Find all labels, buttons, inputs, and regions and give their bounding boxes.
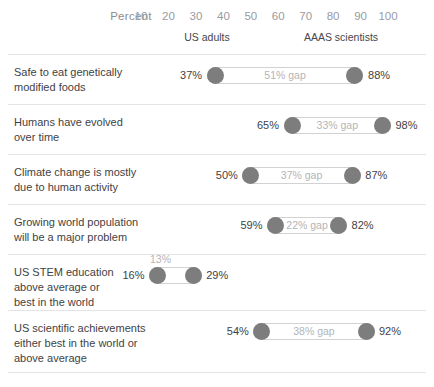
gap-label: 51% gap	[207, 67, 364, 84]
row-divider	[8, 104, 426, 105]
dumbbell-chart: Percent 102030405060708090100 US adultsA…	[0, 0, 434, 387]
row-value-us-adults: 59%	[240, 218, 262, 233]
chart-row: US STEM educationabove average orbest in…	[0, 254, 434, 310]
row-category-label-line: above average	[14, 351, 174, 366]
row-category-label-line: best in the world	[14, 295, 174, 310]
row-category-label-line: due to human activity	[14, 180, 174, 195]
gap-label: 38% gap	[253, 323, 374, 340]
row-divider	[8, 154, 426, 155]
row-value-aaas-scientists: 88%	[368, 68, 390, 83]
row-category-label-line: modified foods	[14, 80, 174, 95]
row-category-label: Safe to eat geneticallymodified foods	[14, 65, 174, 95]
row-divider	[8, 54, 426, 55]
row-category-label-line: Humans have evolved	[14, 115, 174, 130]
chart-row: Safe to eat geneticallymodified foods51%…	[0, 54, 434, 104]
chart-row: US scientific achievementseither best in…	[0, 310, 434, 372]
row-value-us-adults: 37%	[180, 68, 202, 83]
row-category-label-line: Climate change is mostly	[14, 165, 174, 180]
chart-row: Humans have evolvedover time33% gap65%98…	[0, 104, 434, 154]
dumbbell-bar: 37% gap	[242, 167, 361, 184]
bar-dot-us-adults	[267, 217, 284, 234]
gap-label: 13%	[150, 253, 171, 265]
dumbbell-bar: 22% gap	[267, 217, 347, 234]
row-category-label-line: over time	[14, 130, 174, 145]
axis-tick-label: 10	[135, 10, 148, 22]
row-divider	[8, 372, 426, 373]
row-divider	[8, 254, 426, 255]
row-category-label-line: either best in the world or	[14, 336, 174, 351]
row-divider	[8, 310, 426, 311]
axis-tick-label: 80	[327, 10, 340, 22]
row-value-aaas-scientists: 92%	[379, 324, 401, 339]
chart-row: Growing world populationwill be a major …	[0, 204, 434, 254]
row-category-label: Humans have evolvedover time	[14, 115, 174, 145]
bar-dot-us-adults	[149, 267, 166, 284]
bar-dot-aaas-scientists	[358, 323, 375, 340]
row-value-us-adults: 16%	[122, 268, 144, 283]
row-divider	[8, 204, 426, 205]
row-category-label: Growing world populationwill be a major …	[14, 215, 174, 245]
bar-dot-aaas-scientists	[344, 167, 361, 184]
bar-dot-us-adults	[284, 117, 301, 134]
bar-dot-aaas-scientists	[330, 217, 347, 234]
axis-tick-label: 70	[299, 10, 312, 22]
bar-dot-us-adults	[207, 67, 224, 84]
bar-dot-aaas-scientists	[185, 267, 202, 284]
row-value-aaas-scientists: 87%	[365, 168, 387, 183]
row-category-label-line: US scientific achievements	[14, 321, 174, 336]
row-value-us-adults: 54%	[227, 324, 249, 339]
dumbbell-bar: 33% gap	[284, 117, 392, 134]
row-value-aaas-scientists: 82%	[352, 218, 374, 233]
row-value-us-adults: 65%	[257, 118, 279, 133]
row-category-label-line: Safe to eat genetically	[14, 65, 174, 80]
bar-dot-aaas-scientists	[374, 117, 391, 134]
row-category-label-line: will be a major problem	[14, 230, 174, 245]
axis-tick-label: 90	[354, 10, 367, 22]
legend-label-us-adults: US adults	[184, 31, 230, 43]
dumbbell-bar: 38% gap	[253, 323, 374, 340]
axis-tick-label: 40	[217, 10, 230, 22]
axis-tick-label: 100	[378, 10, 397, 22]
row-value-aaas-scientists: 98%	[396, 118, 418, 133]
dumbbell-bar: 51% gap	[207, 67, 364, 84]
axis-tick-label: 50	[244, 10, 257, 22]
axis-tick-label: 60	[272, 10, 285, 22]
axis-tick-label: 30	[189, 10, 202, 22]
row-category-label: US scientific achievementseither best in…	[14, 321, 174, 366]
chart-row: Climate change is mostlydue to human act…	[0, 154, 434, 204]
dumbbell-bar: 13%	[149, 267, 202, 284]
legend-label-aaas-scientists: AAAS scientists	[304, 31, 378, 43]
row-value-us-adults: 50%	[216, 168, 238, 183]
row-category-label-line: Growing world population	[14, 215, 174, 230]
row-value-aaas-scientists: 29%	[206, 268, 228, 283]
axis-tick-label: 20	[162, 10, 175, 22]
row-category-label: Climate change is mostlydue to human act…	[14, 165, 174, 195]
